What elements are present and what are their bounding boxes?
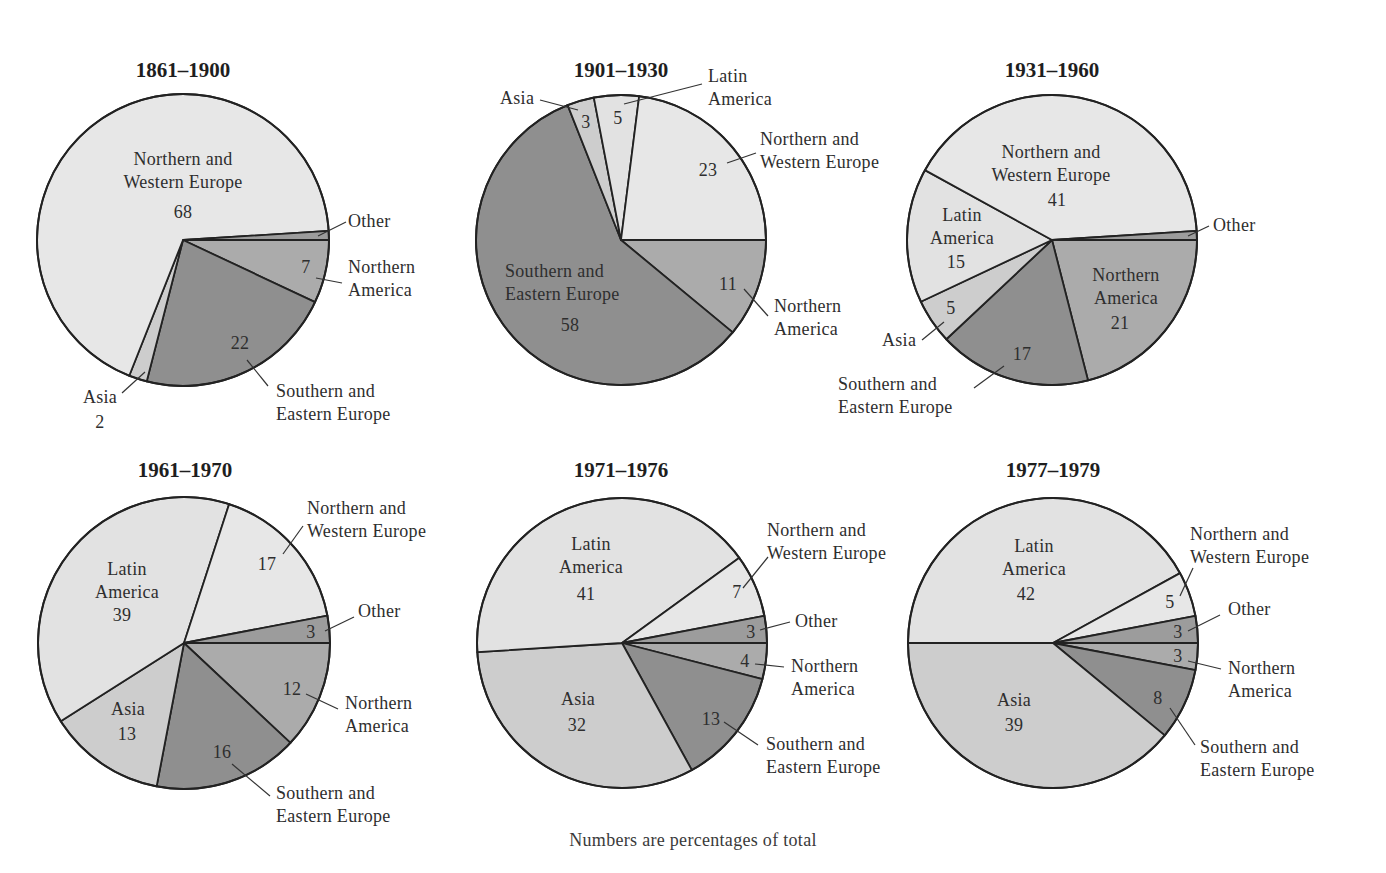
slice-label: 5: [946, 298, 955, 318]
slice-label: 7: [301, 257, 310, 277]
pie-chart-1861-1900: 1861–1900Northern andWestern Europe68Oth…: [37, 58, 415, 432]
slice-label: 68: [174, 202, 193, 222]
slice-label: Asia: [500, 88, 534, 108]
slice-label: 3: [1173, 622, 1182, 642]
pie-chart-1971-1976: 1971–1976Northern andWestern EuropeLatin…: [477, 458, 886, 788]
slice-label: Other: [1228, 599, 1270, 619]
slice-label: 11: [719, 274, 737, 294]
slice-label: Northern andWestern Europe: [767, 520, 886, 563]
slice-label: 13: [702, 709, 721, 729]
slice-label: 13: [118, 724, 137, 744]
slice-label: 42: [1017, 584, 1036, 604]
slice-label: Northern andWestern Europe: [1190, 524, 1309, 567]
slice-label: Other: [795, 611, 837, 631]
slice-label: 21: [1111, 313, 1130, 333]
slice-label: Asia: [83, 387, 117, 407]
leader-line: [1170, 708, 1195, 745]
slice-label: 2: [95, 412, 104, 432]
pie-title: 1977–1979: [1006, 458, 1101, 482]
slice-label: Southern andEastern Europe: [276, 381, 391, 424]
slice-label: Southern andEastern Europe: [1200, 737, 1315, 780]
slice-label: 7: [732, 582, 741, 602]
slice-label: 32: [568, 715, 587, 735]
slice-northern-and-western-europe: [621, 96, 766, 240]
pie-title: 1901–1930: [574, 58, 669, 82]
slice-label: 23: [699, 160, 718, 180]
slice-label: Northern andWestern Europe: [307, 498, 426, 541]
slice-label: 15: [947, 252, 966, 272]
slice-label: Other: [1213, 215, 1255, 235]
slice-label: 5: [1165, 592, 1174, 612]
slice-label: Southern andEastern Europe: [838, 374, 953, 417]
slice-label: Northern andWestern Europe: [760, 129, 879, 172]
slice-label: Southern andEastern Europe: [766, 734, 881, 777]
slice-label: 5: [613, 108, 622, 128]
slice-label: LatinAmerica: [708, 66, 772, 109]
slice-label: 12: [283, 679, 302, 699]
slice-label: NorthernAmerica: [1228, 658, 1295, 701]
slice-label: Asia: [111, 699, 145, 719]
pie-title: 1861–1900: [136, 58, 231, 82]
slice-label: 39: [1005, 715, 1024, 735]
figure-caption: Numbers are percentages of total: [0, 830, 1386, 851]
slice-label: NorthernAmerica: [774, 296, 841, 339]
slice-label: Other: [348, 211, 390, 231]
pie-chart-1901-1930: 1901–1930LatinAmericaAsia35Northern andW…: [476, 58, 879, 385]
slice-label: 3: [746, 622, 755, 642]
slice-label: 16: [213, 742, 232, 762]
slice-label: Other: [358, 601, 400, 621]
slice-label: Asia: [997, 690, 1031, 710]
pie-chart-1977-1979: 1977–1979Northern andWestern EuropeLatin…: [908, 458, 1315, 788]
pie-title: 1931–1960: [1005, 58, 1100, 82]
slice-label: Southern andEastern Europe: [276, 783, 391, 826]
pie-title: 1961–1970: [138, 458, 233, 482]
pie-title: 1971–1976: [574, 458, 669, 482]
slice-label: 41: [577, 584, 596, 604]
slice-label: 3: [306, 622, 315, 642]
slice-label: Asia: [882, 330, 916, 350]
slice-label: 17: [258, 554, 277, 574]
slice-label: NorthernAmerica: [348, 257, 415, 300]
slice-label: 22: [231, 333, 250, 353]
slice-label: 17: [1013, 344, 1032, 364]
slice-label: 58: [561, 315, 580, 335]
slice-label: 3: [581, 112, 590, 132]
slice-label: 4: [740, 651, 749, 671]
immigration-pie-charts-figure: 1861–1900Northern andWestern Europe68Oth…: [0, 0, 1386, 873]
pie-chart-1931-1960: 1931–1960Northern andWestern Europe41Lat…: [838, 58, 1255, 417]
pie-chart-1961-1970: 1961–1970Northern andWestern EuropeLatin…: [38, 458, 426, 826]
slice-label: 41: [1048, 190, 1067, 210]
slice-label: NorthernAmerica: [345, 693, 412, 736]
slice-label: 3: [1173, 646, 1182, 666]
slice-label: Asia: [561, 689, 595, 709]
slice-label: 8: [1153, 688, 1162, 708]
slice-label: 39: [113, 605, 132, 625]
slice-label: NorthernAmerica: [791, 656, 858, 699]
